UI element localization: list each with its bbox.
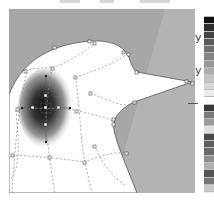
color-swatch[interactable]	[204, 17, 214, 24]
swatch-list[interactable]	[204, 17, 214, 192]
color-swatch[interactable]	[204, 185, 214, 192]
side-glyph: y	[195, 32, 202, 43]
toolbar-fragment	[140, 0, 170, 3]
color-swatch[interactable]	[204, 119, 214, 126]
top-toolbar-strip	[0, 0, 214, 8]
color-swatch[interactable]	[204, 46, 214, 53]
drawing-canvas[interactable]	[9, 9, 195, 193]
color-swatch[interactable]	[204, 24, 214, 31]
color-swatch[interactable]	[204, 112, 214, 119]
color-swatch[interactable]	[204, 141, 214, 148]
color-swatch[interactable]	[204, 39, 214, 46]
toolbar-fragment	[60, 0, 80, 3]
color-swatch[interactable]	[204, 134, 214, 141]
color-swatch[interactable]	[204, 90, 214, 97]
color-swatch[interactable]	[204, 163, 214, 170]
color-swatch[interactable]	[204, 148, 214, 155]
none-swatch-icon[interactable]	[204, 9, 214, 17]
color-swatch[interactable]	[204, 75, 214, 82]
color-swatch[interactable]	[204, 53, 214, 60]
color-swatch[interactable]	[204, 178, 214, 185]
color-swatch[interactable]	[204, 126, 214, 133]
color-swatch[interactable]	[204, 105, 214, 112]
color-swatch[interactable]	[204, 156, 214, 163]
color-swatch[interactable]	[204, 32, 214, 39]
toolbar-fragment	[100, 0, 114, 3]
color-swatch[interactable]	[204, 83, 214, 90]
side-glyph: y	[195, 65, 202, 76]
color-swatch[interactable]	[204, 68, 214, 75]
caption	[0, 194, 214, 200]
color-swatch[interactable]	[204, 97, 214, 104]
color-swatch[interactable]	[204, 170, 214, 177]
gradient-mesh-drawing[interactable]	[9, 9, 195, 193]
color-swatch[interactable]	[204, 61, 214, 68]
color-palette[interactable]	[204, 9, 214, 193]
dash-mark	[188, 103, 198, 104]
